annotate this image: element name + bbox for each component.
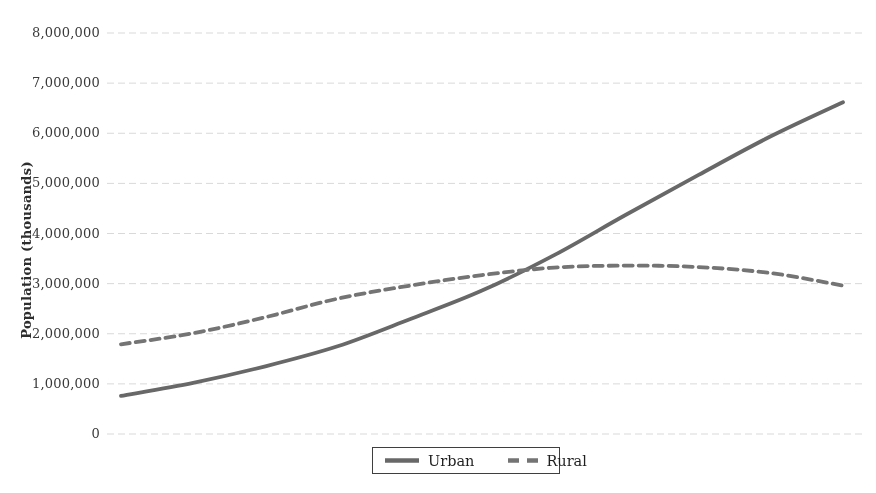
urban-line-series <box>121 102 843 396</box>
population-line-chart-figure: Population (thousands) 01,000,0002,000,0… <box>0 0 876 493</box>
urban-solid-line-swatch <box>384 457 420 464</box>
legend-label-rural: Rural <box>546 453 586 469</box>
rural-dashed-line-swatch <box>508 457 538 464</box>
rural-line-series <box>121 266 843 345</box>
gridlines <box>107 33 862 434</box>
legend: Urban Rural <box>372 447 560 474</box>
legend-label-urban: Urban <box>428 453 474 469</box>
legend-item-rural: Rural <box>508 453 586 469</box>
legend-item-urban: Urban <box>384 453 474 469</box>
plot-area <box>0 0 876 493</box>
